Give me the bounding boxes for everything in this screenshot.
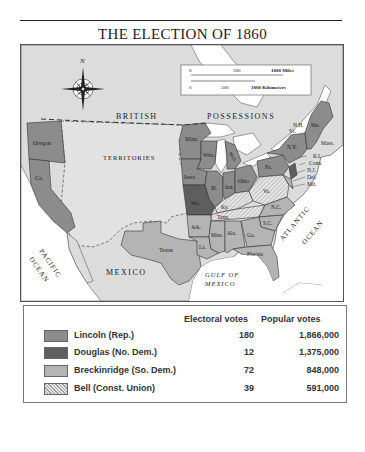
label-atlantic-ocean: OCEAN bbox=[300, 219, 325, 246]
scale-km-1000: 1000 Kilometers bbox=[251, 85, 286, 90]
label-mexico: MEXICO bbox=[106, 268, 147, 277]
label-tenn: Tenn. bbox=[217, 214, 230, 220]
swatch-breckinridge bbox=[44, 365, 68, 377]
map-title: THE ELECTION OF 1860 bbox=[0, 26, 365, 43]
label-ri: R.I. bbox=[313, 153, 322, 159]
label-nj: N.J. bbox=[307, 167, 316, 173]
label-ga: Ga. bbox=[247, 232, 255, 238]
label-la: La. bbox=[199, 244, 207, 250]
label-ohio: Ohio bbox=[238, 178, 249, 184]
swatch-douglas bbox=[44, 347, 68, 359]
label-ill: Ill. bbox=[211, 185, 218, 191]
label-possessions: POSSESSIONS bbox=[207, 112, 275, 121]
label-oregon: Oregon bbox=[33, 140, 51, 146]
legend-popular: 848,000 bbox=[279, 365, 339, 375]
label-va: Va. bbox=[263, 188, 271, 194]
swatch-lincoln bbox=[44, 330, 68, 342]
label-me: Me. bbox=[311, 122, 320, 128]
scale-miles-500: 500 bbox=[233, 68, 241, 73]
label-pa: Pa. bbox=[265, 164, 273, 170]
label-ky: Ky. bbox=[221, 204, 229, 210]
legend-row-douglas: Douglas (No. Dem.) 12 1,375,000 bbox=[44, 347, 334, 359]
legend-popular: 1,866,000 bbox=[279, 330, 339, 340]
legend-row-lincoln: Lincoln (Rep.) 180 1,866,000 bbox=[44, 330, 334, 342]
compass-north-label: N bbox=[79, 57, 85, 65]
label-minn: Minn. bbox=[185, 136, 199, 142]
label-sc: S.C. bbox=[263, 220, 273, 226]
legend-popular: 1,375,000 bbox=[279, 347, 339, 357]
label-british: BRITISH bbox=[116, 112, 158, 121]
label-mass: Mass. bbox=[321, 140, 335, 146]
legend-candidate: Douglas (No. Dem.) bbox=[74, 347, 157, 357]
label-del: Del. bbox=[307, 174, 317, 180]
label-gulf-of: GULF OF bbox=[205, 271, 239, 278]
legend-electoral: 180 bbox=[224, 330, 254, 340]
label-conn: Conn. bbox=[309, 160, 323, 166]
legend-candidate: Bell (Const. Union) bbox=[74, 383, 155, 393]
label-wisc: Wisc. bbox=[203, 152, 216, 158]
legend-popular: 591,000 bbox=[279, 383, 339, 393]
label-gulf-mexico: MEXICO bbox=[204, 280, 236, 287]
legend-candidate: Lincoln (Rep.) bbox=[74, 330, 134, 340]
label-ind: Ind. bbox=[225, 184, 234, 190]
label-vt: Vt. bbox=[289, 128, 297, 134]
label-iowa: Iowa bbox=[184, 174, 196, 180]
label-miss: Miss. bbox=[211, 232, 224, 238]
label-ark: Ark. bbox=[191, 224, 202, 230]
top-rule bbox=[20, 20, 342, 21]
label-territories: TERRITORIES bbox=[103, 154, 155, 161]
label-ala: Ala. bbox=[227, 230, 237, 236]
legend-candidate: Breckinridge (So. Dem.) bbox=[74, 365, 176, 375]
legend-header-popular: Popular votes bbox=[261, 314, 321, 324]
legend-electoral: 72 bbox=[224, 365, 254, 375]
swatch-bell bbox=[44, 383, 68, 395]
election-map: 0 500 1000 Miles 0 500 1000 Kilometers N… bbox=[21, 45, 343, 301]
legend-row-breckinridge: Breckinridge (So. Dem.) 72 848,000 bbox=[44, 365, 334, 377]
scale-km-500: 500 bbox=[221, 85, 229, 90]
label-ny: N.Y. bbox=[287, 144, 298, 150]
label-florida: Florida bbox=[247, 251, 263, 257]
legend-row-bell: Bell (Const. Union) 39 591,000 bbox=[44, 383, 334, 395]
label-texas: Texas bbox=[159, 247, 174, 253]
legend: Electoral votes Popular votes Lincoln (R… bbox=[23, 305, 347, 403]
legend-electoral: 39 bbox=[224, 383, 254, 393]
map-frame: 0 500 1000 Miles 0 500 1000 Kilometers N… bbox=[20, 44, 344, 302]
legend-electoral: 12 bbox=[224, 347, 254, 357]
label-ca: Ca. bbox=[35, 175, 44, 181]
legend-header-electoral: Electoral votes bbox=[184, 314, 248, 324]
label-mo: Mo. bbox=[191, 200, 201, 206]
label-md: Md. bbox=[307, 181, 317, 187]
label-nc: N.C. bbox=[271, 204, 282, 210]
scale-miles-1000: 1000 Miles bbox=[271, 68, 294, 73]
